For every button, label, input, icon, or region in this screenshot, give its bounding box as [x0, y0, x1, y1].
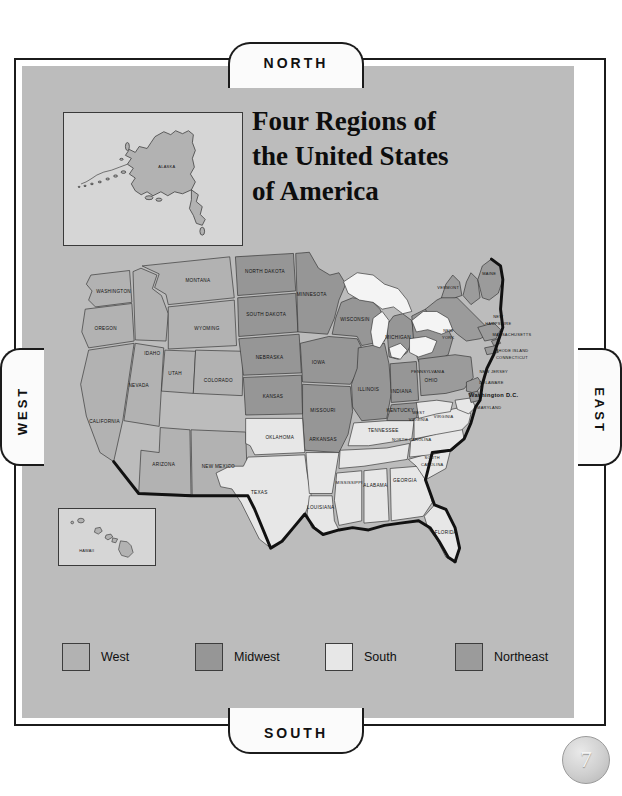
legend-item-south: South — [325, 643, 397, 671]
state-label-kansas: KANSAS — [263, 394, 284, 399]
state-label-washington-dc: Washington D.C. — [469, 392, 519, 398]
title-line-1: Four Regions of — [252, 104, 552, 139]
compass-tab-east: EAST — [578, 348, 622, 466]
compass-tab-south: SOUTH — [228, 708, 364, 754]
page-root: NORTH WEST EAST SOUTH Four Regions of th… — [0, 0, 622, 796]
state-label-new-york-line2: YORK — [442, 335, 454, 340]
state-label-new-mexico: NEW MEXICO — [202, 464, 235, 469]
state-label-new-hampshire-line1: NEW — [493, 314, 503, 319]
legend-label-south: South — [364, 650, 397, 664]
state-label-arkansas: ARKANSAS — [309, 437, 337, 442]
alaska-map-svg: ALASKA — [64, 113, 242, 245]
legend-swatch-midwest — [195, 643, 223, 671]
legend-swatch-south — [325, 643, 353, 671]
state-label-tennessee: TENNESSEE — [368, 428, 399, 433]
state-label-mississippi: MISSISSIPPI — [336, 480, 363, 485]
state-label-iowa: IOWA — [312, 360, 326, 365]
state-label-new-jersey: NEW JERSEY — [479, 369, 508, 374]
state-label-kentucky: KENTUCKY — [387, 408, 415, 413]
legend-item-midwest: Midwest — [195, 643, 280, 671]
state-label-rhode-island: RHODE ISLAND — [495, 348, 528, 353]
legend-label-midwest: Midwest — [234, 650, 280, 664]
state-label-texas: TEXAS — [251, 490, 268, 495]
state-label-north-dakota: NORTH DAKOTA — [245, 269, 286, 274]
state-label-wisconsin: WISCONSIN — [340, 317, 369, 322]
state-label-vermont: VERMONT — [437, 285, 459, 290]
compass-label-south: SOUTH — [264, 725, 328, 741]
state-label-pennsylvania: PENNSYLVANIA — [411, 369, 444, 374]
state-label-south-carolina-line2: CAROLINA — [421, 462, 444, 467]
compass-tab-west: WEST — [0, 348, 44, 466]
state-label-north-carolina: NORTH CAROLINA — [392, 437, 431, 442]
state-label-colorado: COLORADO — [204, 378, 233, 383]
state-label-new-hampshire-line2: HAMPSHIRE — [485, 321, 511, 326]
state-label-utah: UTAH — [168, 371, 181, 376]
state-label-delaware: DELAWARE — [479, 380, 503, 385]
state-label-wyoming: WYOMING — [194, 326, 219, 331]
legend-label-west: West — [101, 650, 129, 664]
state-label-michigan: MICHIGAN — [385, 335, 411, 340]
compass-label-north: NORTH — [264, 55, 329, 71]
state-label-west-virginia-line1: WEST — [412, 410, 425, 415]
state-label-maine: MAINE — [482, 271, 496, 276]
state-label-nevada: NEVADA — [128, 383, 149, 388]
state-label-missouri: MISSOURI — [310, 408, 335, 413]
state-label-nebraska: NEBRASKA — [256, 355, 284, 360]
state-label-oklahoma: OKLAHOMA — [265, 435, 294, 440]
state-label-minnesota: MINNESOTA — [297, 292, 328, 297]
us-map: .w{fill:#b2b2b2} .mw{fill:#969696} .s{fi… — [22, 250, 574, 580]
legend-item-west: West — [62, 643, 129, 671]
state-label-indiana: INDIANA — [391, 389, 412, 394]
state-label-west-virginia-line2: VIRGINIA — [409, 417, 429, 422]
legend-swatch-northeast — [455, 643, 483, 671]
page-number-badge: 7 — [562, 736, 610, 784]
state-label-south-dakota: SOUTH DAKOTA — [246, 312, 286, 317]
state-label-arizona: ARIZONA — [152, 462, 175, 467]
state-label-new-york-line1: NEW — [443, 328, 453, 333]
legend-label-northeast: Northeast — [494, 650, 548, 664]
inset-alaska: ALASKA — [63, 112, 243, 246]
state-label-georgia: GEORGIA — [393, 478, 417, 483]
inset-label-alaska: ALASKA — [158, 164, 175, 169]
page-number: 7 — [580, 747, 592, 773]
compass-tab-north: NORTH — [228, 42, 364, 88]
state-label-connecticut: CONNECTICUT — [496, 355, 528, 360]
state-label-montana: MONTANA — [185, 278, 211, 283]
state-label-louisiana: LOUISIANA — [307, 505, 335, 510]
state-label-virginia: VIRGINIA — [434, 414, 454, 419]
state-label-idaho: IDAHO — [144, 351, 160, 356]
title-line-3: of America — [252, 174, 552, 209]
state-label-maryland: MARYLAND — [477, 405, 501, 410]
state-label-oregon: OREGON — [94, 326, 116, 331]
state-label-south-carolina-line1: SOUTH — [425, 455, 440, 460]
title-line-2: the United States — [252, 139, 552, 174]
page-title: Four Regions of the United States of Ame… — [252, 104, 552, 209]
compass-label-east: EAST — [592, 381, 607, 434]
state-label-california: CALIFORNIA — [89, 419, 120, 424]
state-label-florida: FLORIDA — [435, 530, 458, 535]
compass-label-west: WEST — [16, 379, 31, 435]
state-label-washington: WASHINGTON — [96, 289, 131, 294]
map-legend: West Midwest South Northeast — [62, 643, 532, 677]
state-label-illinois: ILLINOIS — [358, 387, 379, 392]
legend-item-northeast: Northeast — [455, 643, 548, 671]
state-label-ohio: OHIO — [425, 378, 438, 383]
state-label-alabama: ALABAMA — [363, 483, 388, 488]
us-map-svg: .w{fill:#b2b2b2} .mw{fill:#969696} .s{fi… — [22, 250, 574, 580]
state-label-massachusetts: MASSACHUSETTS — [492, 332, 531, 337]
legend-swatch-west — [62, 643, 90, 671]
